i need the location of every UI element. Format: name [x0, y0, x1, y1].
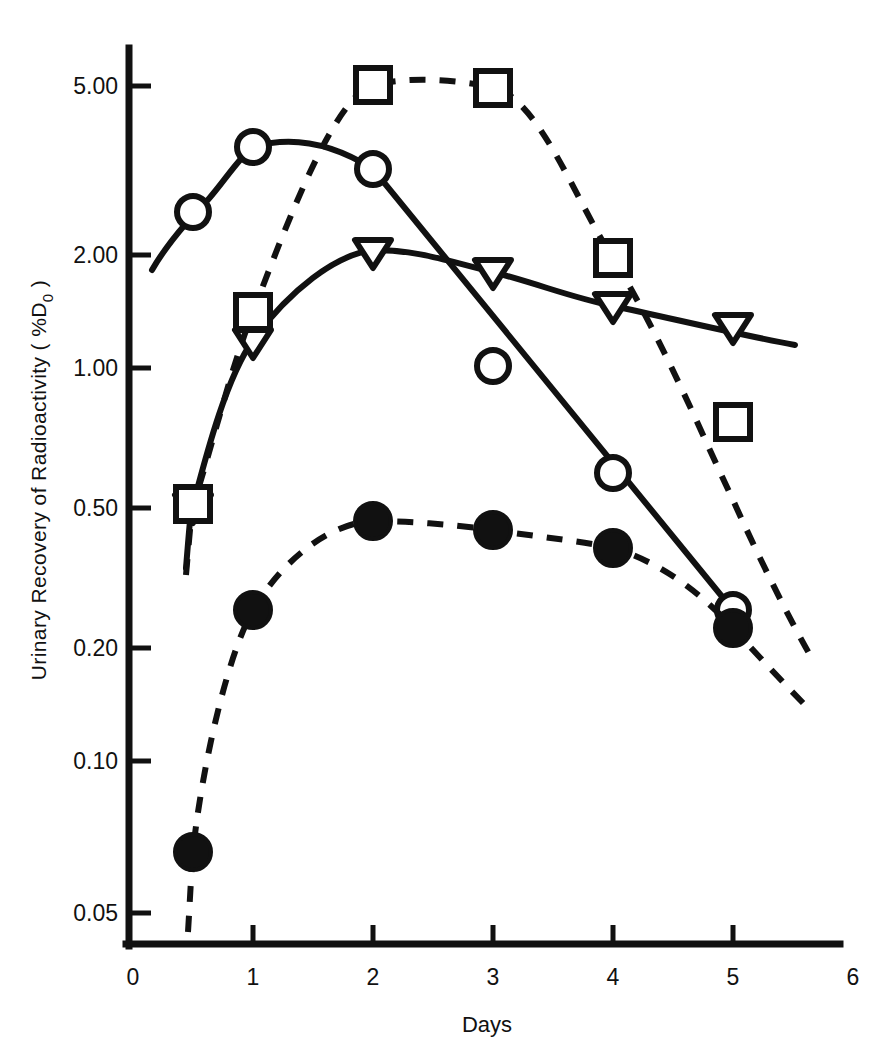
data-point-marker [597, 457, 629, 489]
data-point-marker [475, 512, 511, 548]
x-tick-label-0: 0 [127, 964, 140, 990]
y-axis-title: Urinary Recovery of Radioactivity ( %D0 … [27, 280, 56, 681]
data-point-marker [177, 196, 209, 228]
x-tick-label-3: 3 [487, 964, 500, 990]
y-tick-label-1: 1.00 [73, 355, 118, 381]
x-axis-title: Days [462, 1012, 512, 1037]
data-point-marker [235, 592, 271, 628]
y-tick-label-0.5: 0.50 [73, 495, 118, 521]
data-point-marker [477, 350, 509, 382]
series-filled-circle [175, 503, 812, 932]
y-tick-label-5: 5.00 [73, 73, 118, 99]
y-tick-label-0.1: 0.10 [73, 748, 118, 774]
data-point-marker [356, 68, 390, 102]
data-point-marker [595, 530, 631, 566]
x-axis-tick-labels: 0 1 2 3 4 5 6 [127, 964, 860, 990]
data-point-marker [716, 405, 750, 439]
y-axis-title-main: Urinary Recovery of Radioactivity ( %D [27, 302, 50, 680]
data-point-marker [176, 487, 210, 521]
series-open-circle-line [152, 142, 733, 610]
series-open-circle [152, 131, 749, 626]
y-tick-label-0.05: 0.05 [73, 900, 118, 926]
x-tick-label-2: 2 [367, 964, 380, 990]
x-tick-label-5: 5 [727, 964, 740, 990]
data-point-marker [237, 131, 269, 163]
y-tick-label-2: 2.00 [73, 242, 118, 268]
data-point-marker [357, 153, 389, 185]
data-point-marker [715, 610, 751, 646]
axis-lines [126, 48, 840, 946]
y-axis-title-subscript: 0 [39, 293, 56, 302]
chart-figure: 5.00 2.00 1.00 0.50 0.20 0.10 0.05 0 1 2… [0, 0, 884, 1056]
data-point-marker [596, 241, 630, 275]
y-axis-tick-labels: 5.00 2.00 1.00 0.50 0.20 0.10 0.05 [73, 73, 118, 926]
data-point-marker [235, 330, 271, 358]
y-tick-label-0.2: 0.20 [73, 635, 118, 661]
x-tick-label-4: 4 [607, 964, 620, 990]
data-point-marker [355, 503, 391, 539]
data-point-marker [236, 295, 270, 329]
series-filled-circle-line [188, 521, 812, 932]
x-tick-label-1: 1 [247, 964, 260, 990]
y-axis-title-close: ) [27, 280, 50, 294]
x-tick-label-6: 6 [847, 964, 860, 990]
data-point-marker [175, 834, 211, 870]
chart-svg: 5.00 2.00 1.00 0.50 0.20 0.10 0.05 0 1 2… [0, 0, 884, 1056]
svg-text:Urinary Recovery of Radioactiv: Urinary Recovery of Radioactivity ( %D0 … [27, 280, 56, 681]
data-point-marker [476, 71, 510, 105]
